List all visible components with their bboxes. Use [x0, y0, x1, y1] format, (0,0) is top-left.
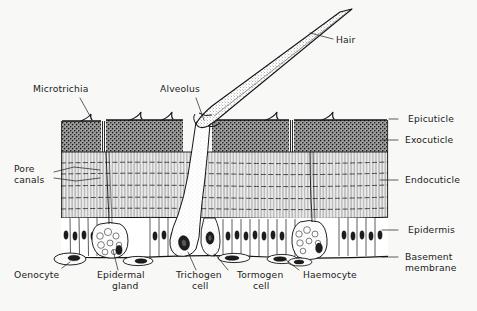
label-basement-membrane-line2: membrane: [405, 262, 457, 273]
label-basement-membrane-line1: Basement: [405, 251, 453, 262]
label-epidermis: Epidermis: [408, 224, 455, 235]
integument-diagram: Hair Microtrichia Alveolus Pore canals E…: [0, 0, 477, 311]
tormogen-cell: [201, 218, 220, 256]
diagram-canvas: Hair Microtrichia Alveolus Pore canals E…: [0, 0, 477, 311]
label-oenocyte: Oenocyte: [14, 269, 59, 280]
label-epidermal-gland-line1: Epidermal: [97, 269, 145, 280]
label-endocuticle: Endocuticle: [405, 174, 460, 185]
label-hair: Hair: [336, 34, 356, 45]
label-tormogen-cell-line2: cell: [253, 280, 269, 291]
label-exocuticle: Exocuticle: [405, 134, 454, 145]
label-tormogen-cell-line1: Tormogen: [236, 269, 283, 280]
label-trichogen-cell-line2: cell: [192, 280, 208, 291]
label-haemocyte: Haemocyte: [303, 269, 357, 280]
label-trichogen-cell-line1: Trichogen: [175, 269, 222, 280]
cuticle-block: [61, 112, 388, 218]
label-epicuticle: Epicuticle: [408, 113, 454, 124]
label-pore-canals-line1: Pore: [14, 163, 35, 174]
label-pore-canals-line2: canals: [14, 174, 44, 185]
label-epidermal-gland-line2: gland: [112, 280, 138, 291]
exocuticle-layer: [61, 120, 388, 152]
label-microtrichia: Microtrichia: [33, 83, 89, 94]
label-alveolus: Alveolus: [160, 83, 200, 94]
oenocyte: [54, 253, 86, 265]
